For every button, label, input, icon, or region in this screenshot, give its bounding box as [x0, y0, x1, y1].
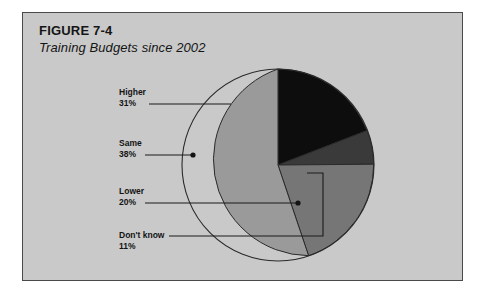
- pie-label-lower: Lower 20%: [119, 186, 144, 207]
- pie-label-same-name: Same: [119, 138, 142, 149]
- leader-dot-same: [190, 152, 195, 157]
- pie-label-lower-value: 20%: [119, 197, 144, 208]
- pie-label-higher-value: 31%: [119, 98, 146, 109]
- pie-label-same-value: 38%: [119, 149, 142, 160]
- pie-label-dont-know-name: Don't know: [119, 230, 164, 241]
- figure-page: FIGURE 7-4 Training Budgets since 2002: [0, 0, 486, 295]
- pie-label-higher: Higher 31%: [119, 87, 146, 108]
- pie-chart: Higher 31% Same 38% Lower 20% Don't know…: [23, 13, 464, 282]
- pie-label-dont-know-value: 11%: [119, 241, 164, 252]
- pie-label-dont-know: Don't know 11%: [119, 230, 164, 251]
- pie-label-higher-name: Higher: [119, 87, 146, 98]
- leader-dot-lower: [295, 200, 300, 205]
- pie-label-lower-name: Lower: [119, 186, 144, 197]
- pie-chart-svg: [23, 13, 464, 282]
- figure-panel: FIGURE 7-4 Training Budgets since 2002: [22, 12, 463, 281]
- pie-label-same: Same 38%: [119, 138, 142, 159]
